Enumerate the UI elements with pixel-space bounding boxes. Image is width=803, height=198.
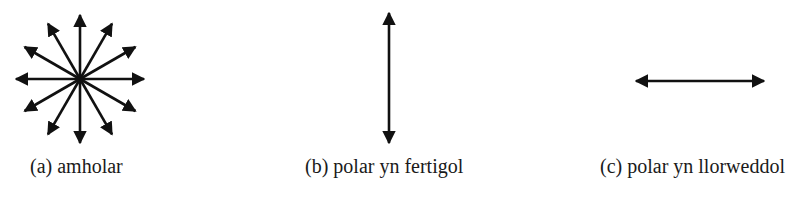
caption-unpolarized: (a) amholar: [30, 154, 123, 178]
unpolarized-starburst-icon: [16, 15, 144, 143]
caption-vertical-polar: (b) polar yn fertigol: [305, 154, 463, 178]
caption-horizontal-polar: (c) polar yn llorweddol: [600, 154, 785, 178]
polarization-diagram: (a) amholar (b) polar yn fertigol (c) po…: [0, 0, 803, 198]
